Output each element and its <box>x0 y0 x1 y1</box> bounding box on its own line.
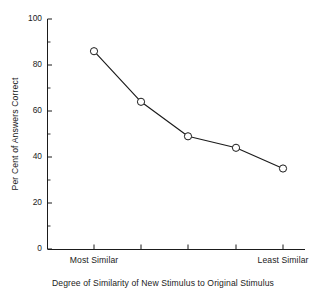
x-axis-ticks <box>94 245 283 250</box>
data-point-marker <box>279 165 286 172</box>
y-axis-ticks <box>48 19 53 249</box>
data-point-marker <box>90 48 97 55</box>
x-axis-title: Degree of Similarity of New Stimulus to … <box>0 278 326 288</box>
x-tick-label-least-similar: Least Similar <box>258 255 309 265</box>
data-point-marker <box>137 98 144 105</box>
data-point-markers <box>90 48 286 172</box>
data-point-marker <box>232 144 239 151</box>
chart-figure: Per Cent of Answers Correct 100806040200… <box>0 0 326 299</box>
data-line <box>94 51 283 168</box>
x-tick-label-most-similar: Most Similar <box>70 255 118 265</box>
data-point-marker <box>184 133 191 140</box>
